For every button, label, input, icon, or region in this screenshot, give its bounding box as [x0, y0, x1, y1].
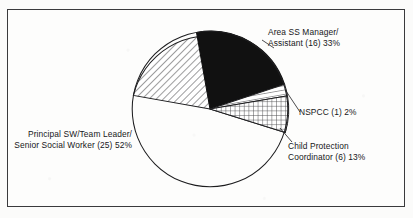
slice-label-child-protection-line1: Child Protection: [288, 141, 365, 152]
slice-label-area-ss-manager-line1: Area SS Manager/: [268, 27, 340, 38]
slice-label-principal-sw-line2: Senior Social Worker (25) 52%: [14, 140, 132, 151]
slice-label-principal-sw-line1: Principal SW/Team Leader/: [14, 129, 132, 140]
slice-label-principal-sw: Principal SW/Team Leader/ Senior Social …: [14, 129, 132, 151]
slice-label-area-ss-manager: Area SS Manager/ Assistant (16) 33%: [268, 27, 340, 49]
slice-label-area-ss-manager-line2: Assistant (16) 33%: [268, 38, 340, 49]
slice-label-nspcc: NSPCC (1) 2%: [299, 107, 357, 118]
slice-label-child-protection-coordinator: Child Protection Coordinator (6) 13%: [288, 141, 365, 163]
slice-label-child-protection-line2: Coordinator (6) 13%: [288, 152, 365, 163]
figure-container: . . . .: [0, 0, 413, 218]
slice-label-nspcc-line1: NSPCC (1) 2%: [299, 107, 357, 118]
